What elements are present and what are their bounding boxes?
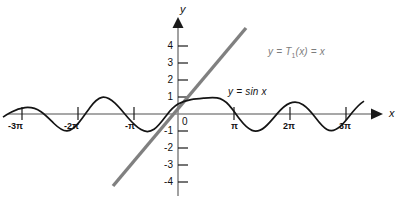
x-tick-label-pi: π (231, 122, 238, 131)
taylor-annotation-suffix: (x) = x (296, 46, 325, 57)
taylor-annotation-prefix: y = T (268, 46, 292, 57)
y-tick-label-1: 1 (162, 92, 173, 102)
y-tick-label-neg-4: -4 (156, 177, 173, 187)
y-tick-label-4: 4 (162, 41, 173, 51)
y-tick-label-2: 2 (162, 75, 173, 85)
y-axis-label: y (180, 4, 186, 15)
x-tick-label-neg-pi: -π (125, 122, 135, 131)
x-tick-label-2pi: 2π (283, 122, 295, 131)
x-axis-arrowhead (371, 109, 383, 120)
y-tick-label-neg-3: -3 (156, 160, 173, 170)
x-axis-label: x (389, 108, 395, 119)
sine-curve-annotation: y = sin x (228, 87, 267, 97)
taylor-polynomial-figure: y x 0 -3π -2π -π π 2π 3π 4 3 2 1 -1 -2 -… (0, 0, 405, 202)
y-tick-label-neg-1: -1 (156, 126, 173, 136)
y-tick-label-neg-2: -2 (156, 143, 173, 153)
taylor-line-y-equals-x (113, 28, 246, 186)
y-axis-arrowhead (173, 17, 184, 28)
taylor-curve-annotation: y = T1(x) = x (268, 47, 325, 59)
y-tick-label-3: 3 (162, 58, 173, 68)
x-tick-label-3pi: 3π (339, 122, 351, 131)
plot-canvas (0, 0, 405, 202)
x-tick-label-neg-3pi: -3π (8, 122, 23, 131)
x-tick-label-neg-2pi: -2π (64, 122, 79, 131)
origin-label: 0 (182, 117, 188, 127)
